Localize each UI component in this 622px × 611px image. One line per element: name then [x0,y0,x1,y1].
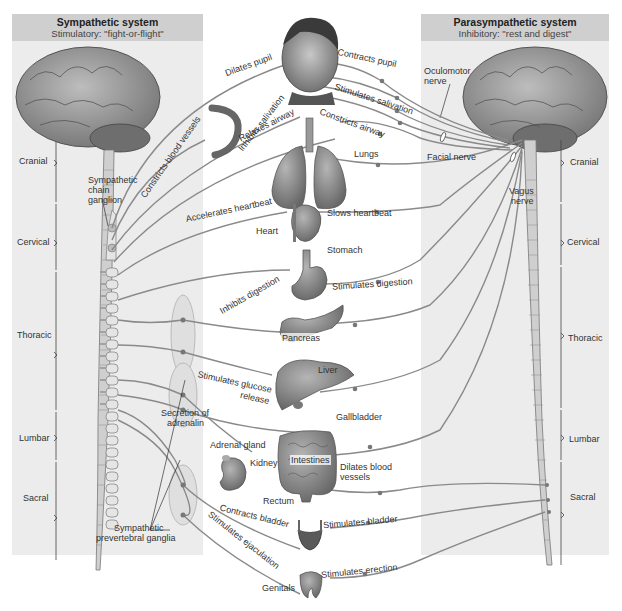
organ-label-pancreas: Pancreas [281,333,321,343]
left-region-thoracic: Thoracic [17,330,52,340]
right-region-cervical: Cervical [567,237,600,247]
sympathetic-chain [106,210,118,529]
oculomotor-label-2: nerve [424,76,447,86]
heart-icon [292,204,321,242]
left-region-cervical: Cervical [17,237,50,247]
vagus-label-1: Vagus [509,186,534,196]
ganglia-label-2: prevertebral ganglia [96,533,176,543]
right-region-cranial: Cranial [570,157,599,167]
organ-label-heart: Heart [256,226,278,236]
oculomotor-label-1: Oculomotor [424,66,471,76]
organ-label-genitals: Genitals [262,583,295,593]
left-region-sacral: Sacral [23,493,49,503]
organ-label-kidney: Kidney [250,458,278,468]
lungs-icon [272,118,346,209]
kidney-icon [220,455,246,490]
right-region-braces [561,140,564,565]
organ-label-lungs: Lungs [354,149,379,159]
facial-nerve-label: Facial nerve [427,152,476,162]
left-region-braces [54,142,57,560]
ganglia-label-1: Sympathetic [114,523,164,533]
organ-label-liver: Liver [318,365,338,375]
action-gallbladder: Gallbladder [336,412,382,422]
right-region-lumbar: Lumbar [569,434,600,444]
bladder-icon [298,520,322,550]
genitals-icon [300,572,322,598]
chain-label-3: ganglion [88,195,122,205]
action-slows-heartbeat: Slows heartbeat [327,208,392,218]
vagus-label-2: nerve [511,196,534,206]
organ-label-adrenal: Adrenal gland [210,440,266,450]
action-dilates-blood-2: vessels [340,472,370,482]
right-region-thoracic: Thoracic [568,333,603,343]
left-brain-icon [16,47,160,152]
face-icon [282,18,338,105]
organ-label-intestines: Intestines [290,455,331,465]
liver-icon [276,360,354,410]
blood-vessel-icon [212,108,238,155]
right-region-sacral: Sacral [570,492,596,502]
nervous-system-diagram [0,0,622,611]
chain-label-1: Sympathetic [88,175,138,185]
action-dilates-blood-1: Dilates blood [340,462,392,472]
left-region-lumbar: Lumbar [19,433,50,443]
chain-label-2: chain [88,185,110,195]
organ-label-stomach: Stomach [327,245,363,255]
organ-label-rectum: Rectum [263,496,294,506]
adrenalin-label-2: adrenalin [167,418,204,428]
adrenalin-label-1: Secretion of [161,408,209,418]
stomach-icon [292,250,327,300]
left-region-cranial: Cranial [19,156,48,166]
intestines-icon [278,431,336,502]
